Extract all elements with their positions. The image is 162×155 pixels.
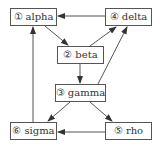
node-label: delta bbox=[122, 12, 148, 22]
edge-gamma-to-rho bbox=[90, 102, 112, 121]
node-number: ③ bbox=[56, 88, 65, 98]
edge-alpha-to-beta bbox=[45, 26, 68, 45]
node-label: beta bbox=[75, 50, 97, 60]
edge-beta-to-delta bbox=[90, 27, 116, 46]
node-number: ④ bbox=[110, 12, 119, 22]
node-beta: ② beta bbox=[57, 46, 104, 64]
node-sigma: ⑥ sigma bbox=[10, 122, 57, 140]
node-label: alpha bbox=[26, 12, 54, 22]
diagram-canvas: ① alpha ② beta ③ gamma ④ delta ⑤ rho ⑥ s… bbox=[0, 0, 162, 155]
node-number: ② bbox=[63, 50, 72, 60]
node-alpha: ① alpha bbox=[10, 8, 57, 26]
node-delta: ④ delta bbox=[105, 8, 152, 26]
node-label: rho bbox=[126, 126, 143, 136]
edge-gamma-to-sigma bbox=[48, 102, 70, 121]
node-number: ① bbox=[14, 12, 23, 22]
node-number: ⑥ bbox=[12, 126, 21, 136]
node-rho: ⑤ rho bbox=[105, 122, 152, 140]
node-gamma: ③ gamma bbox=[55, 84, 106, 102]
node-label: gamma bbox=[68, 88, 105, 98]
node-label: sigma bbox=[24, 126, 54, 136]
node-number: ⑤ bbox=[114, 126, 123, 136]
